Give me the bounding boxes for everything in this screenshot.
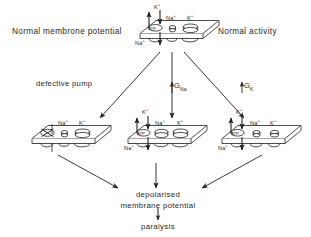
outcome-depolarised-line1: depolarised [110, 190, 206, 201]
branch-arrows [100, 52, 244, 118]
top-membrane-na-out-label: Na+ [135, 40, 145, 46]
left-membrane-na-channel-label: Na+ [58, 120, 68, 126]
top-membrane-na-channel-label: Na+ [166, 15, 176, 21]
outcome-depolarised: depolarised membrane potential [110, 190, 206, 211]
middle-membrane-atp-label: ATP [137, 131, 145, 136]
converging-arrows [58, 155, 262, 188]
right-membrane-na-out-label: Na+ [218, 145, 228, 151]
middle-membrane-k-channel-label: K+ [177, 120, 184, 126]
top-membrane-k-channel-label: K+ [187, 15, 194, 21]
right-membrane-k-in-label: K+ [236, 109, 243, 115]
middle-membrane-na-out-label: Na+ [124, 145, 134, 151]
right-membrane-na-channel-label: Na+ [250, 120, 260, 126]
label-normal-activity: Normal activity [218, 27, 277, 36]
right-membrane-slab [222, 126, 301, 147]
right-membrane-atp-label: ATP [231, 131, 239, 136]
label-defective-pump: defective pump [36, 79, 92, 88]
middle-membrane-slab [128, 126, 207, 147]
label-normal-membrane-potential: Normal membrone potential [12, 27, 122, 36]
label-gk-increase: GK [244, 81, 253, 90]
diagram-canvas: Normal membrone potential Normal activit… [0, 0, 311, 237]
middle-membrane-k-in-label: K+ [142, 109, 149, 115]
label-gna-increase: GNa [174, 81, 187, 90]
left-membrane-slab [32, 124, 111, 152]
top-membrane-atp-label: ATP [148, 26, 156, 31]
top-membrane-k-in-label: K+ [154, 4, 161, 10]
outcome-paralysis: paralysis [120, 222, 196, 233]
right-membrane-k-channel-label: K+ [270, 120, 277, 126]
middle-membrane-na-channel-label: Na+ [155, 120, 165, 126]
outcome-depolarised-line2: membrane potential [110, 201, 206, 212]
top-membrane-slab [140, 21, 219, 42]
left-membrane-k-channel-label: K+ [79, 120, 86, 126]
